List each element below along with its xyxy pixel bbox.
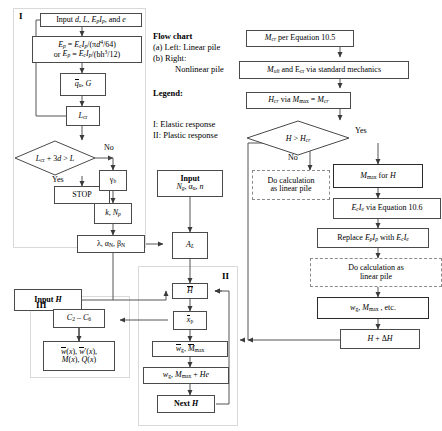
box-AL[interactable]: AL [172,232,208,259]
box-gamma-b[interactable]: γb [99,170,127,191]
box-constants-C2-C6[interactable]: C2 – C6 [53,309,105,328]
group-label-II: II [222,271,229,281]
box-wg-Mmax-etc[interactable]: wg, Mmax , etc. [317,297,429,319]
label-no-left: No [104,143,114,152]
decision-Lcr-label: Lcr + 3d > L [14,140,96,176]
box-Hcr[interactable]: Hcr via Mmax = Mcr [246,92,351,109]
group-label-I: I [19,11,23,21]
flowchart-canvas: I II III Flow chart (a) Left: Linear pil… [0,0,442,431]
box-replace-stiffness[interactable]: Replace EpIp with EcIe [317,228,429,248]
box-wg-Mmax-He[interactable]: wg, Mmax + He [143,367,229,384]
box-qu-G[interactable]: qu, G [60,73,106,96]
box-do-calc-linear-left: Do calculation as linear pile [252,170,330,200]
box-EcIe-equation[interactable]: EcIe via Equation 10.6 [333,198,441,219]
decision-H-gt-Hcr[interactable]: H > Hcr [246,120,350,156]
box-H-bar[interactable]: H [172,283,208,299]
decision-Lcr-plus-3d[interactable]: Lcr + 3d > L [14,140,96,176]
legend-line-a: (a) Left: Linear pile [153,42,220,53]
box-input-H[interactable]: Input H [14,289,82,311]
decision-H-label: H > Hcr [246,120,350,156]
box-input-pile-properties[interactable]: Input d, L, EpIp, and e [40,13,142,27]
label-yes-left: Yes [52,175,64,184]
box-Lcr[interactable]: Lcr [66,106,100,126]
legend-line-b: (b) Right: [153,53,186,64]
box-deflection-outputs[interactable]: w(x), w′(x), M(x), Q(x) [43,341,115,371]
box-do-calc-linear-right: Do calculation as linear pile [310,258,442,287]
box-lambda-alphaN-betaN[interactable]: λ, αN, βN [77,235,145,253]
group-label-III: III [36,300,47,310]
legend-item-plastic: II: Plastic response [153,130,218,141]
box-Mult-Ecr[interactable]: Mult and Ecr via standard mechanics [239,61,409,79]
box-k-Np[interactable]: k, Np [94,203,132,224]
do-calc-right-line2: linear pile [360,273,392,281]
legend-item-elastic: I: Elastic response [153,119,215,130]
box-modulus-equation[interactable]: Ep = EcIp/(πd4/64) or Ep = EcIp/(bh3/12) [32,36,142,63]
legend-heading: Legend: [153,88,183,99]
box-Mmax-for-H[interactable]: Mmax for H [333,164,423,188]
box-wg-Mmax-bar[interactable]: wg, Mmax [152,341,228,357]
box-input-soil-params[interactable]: Input Ng, αu, n [157,170,223,197]
legend-flowchart-heading: Flow chart [153,31,192,42]
label-yes-right: Yes [355,126,367,135]
do-calc-left-line2: as linear pile [271,185,312,193]
legend-line-b2: Nonlinear pile [175,64,224,75]
box-Mcr-equation[interactable]: Mcr per Equation 10.5 [246,30,354,47]
box-next-H[interactable]: Next H [157,395,215,413]
box-xp-bar[interactable]: xp [173,311,207,330]
label-no-right: No [288,153,298,162]
box-H-plus-deltaH[interactable]: H + ΔH [340,329,420,349]
